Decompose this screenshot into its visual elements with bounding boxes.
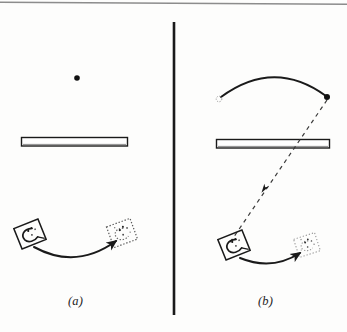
panel-b	[216, 77, 330, 263]
figure-canvas	[0, 0, 347, 332]
motion-arc	[240, 253, 300, 263]
panel-label-b: (b)	[258, 294, 273, 309]
horizontal-barrier	[22, 138, 128, 147]
horizontal-barrier	[217, 140, 330, 149]
hand-start	[218, 230, 250, 260]
panel-a	[14, 75, 138, 257]
top-border-rule	[0, 2, 347, 4]
arc-end-dot	[324, 94, 330, 100]
panel-label-a: (a)	[68, 294, 83, 309]
hand-start	[14, 219, 46, 249]
figure-container: (a) (b)	[0, 0, 347, 332]
upper-trajectory-arc	[221, 77, 326, 97]
dashed-return-path	[229, 100, 327, 244]
ball-dot	[74, 75, 80, 81]
motion-arc	[34, 241, 116, 257]
